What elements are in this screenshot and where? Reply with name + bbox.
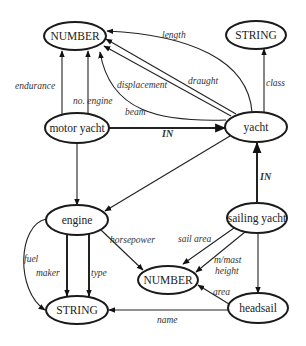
label-no-engine: no. engine [73, 96, 113, 106]
label-area: area [213, 287, 230, 297]
node-string-bottom: STRING [46, 296, 108, 324]
node-headsail: headsail [228, 293, 288, 323]
node-string-top: STRING [226, 21, 286, 49]
node-number-bottom: NUMBER [138, 266, 198, 294]
svg-text:NUMBER: NUMBER [143, 274, 193, 286]
label-class: class [266, 78, 285, 88]
label-length: length [162, 30, 186, 40]
node-sailing-yacht: sailing yacht [227, 203, 287, 233]
label-endurance: endurance [15, 81, 55, 91]
svg-text:headsail: headsail [239, 302, 277, 314]
edge-yacht-engine [105, 136, 230, 211]
node-yacht: yacht [225, 112, 287, 142]
label-sail-area: sail area [178, 234, 211, 244]
label-name: name [157, 315, 178, 325]
label-in-sailing: IN [259, 171, 272, 182]
label-displacement: displacement [117, 80, 167, 90]
svg-text:STRING: STRING [235, 29, 277, 41]
label-maker: maker [36, 268, 60, 278]
svg-text:engine: engine [62, 214, 93, 227]
label-type: type [91, 268, 107, 278]
node-motor-yacht: motor yacht [45, 113, 109, 143]
label-mmast-1: m/mast [214, 255, 242, 265]
node-number-top: NUMBER [44, 22, 106, 50]
label-beam: beam [125, 107, 146, 117]
label-fuel: fuel [24, 254, 39, 264]
yacht-class-diagram: endurance no. engine displacement beam d… [0, 0, 306, 346]
svg-text:motor yacht: motor yacht [49, 122, 105, 135]
label-mmast-2: height [215, 266, 239, 276]
label-horsepower: horsepower [110, 235, 155, 245]
svg-text:yacht: yacht [244, 121, 270, 134]
label-in-motor: IN [161, 128, 174, 139]
label-draught: draught [188, 76, 218, 86]
svg-text:STRING: STRING [56, 304, 98, 316]
edge-fuel [24, 219, 46, 310]
svg-text:sailing yacht: sailing yacht [228, 212, 287, 225]
svg-text:NUMBER: NUMBER [50, 30, 100, 42]
node-engine: engine [46, 205, 108, 235]
